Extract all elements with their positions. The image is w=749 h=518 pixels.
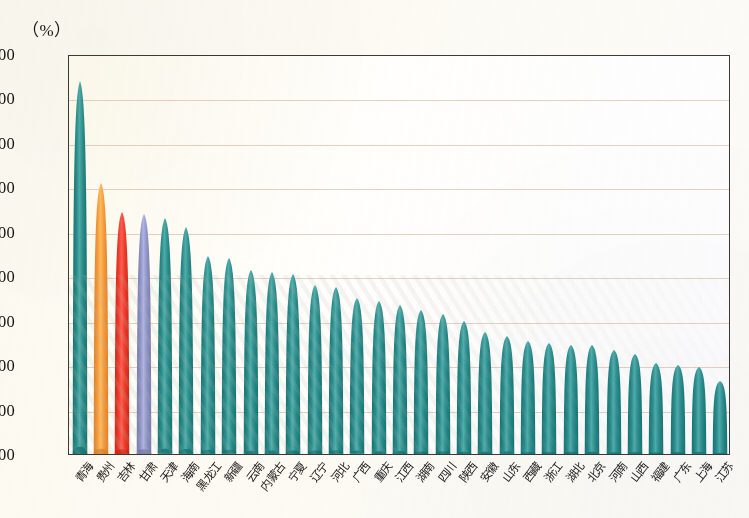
bar-cone — [222, 258, 237, 454]
bar — [585, 345, 600, 454]
x-tick-label: 西藏 — [519, 458, 545, 485]
bar-cone — [200, 256, 215, 454]
bar — [222, 258, 237, 454]
x-tick-label: 湖北 — [561, 458, 587, 485]
bar — [286, 274, 301, 454]
bar-cone — [499, 336, 514, 454]
y-axis-unit-label: （%） — [22, 16, 72, 41]
bar — [627, 354, 642, 454]
bar-cone — [521, 341, 536, 454]
bar-cone — [606, 350, 621, 454]
bar-cone — [243, 270, 258, 454]
bar — [350, 298, 365, 454]
x-tick-label: 江西 — [390, 458, 416, 485]
x-tick-label: 内蒙古 — [256, 458, 289, 494]
y-tick-label: 60.00 — [0, 178, 15, 198]
bar — [200, 256, 215, 454]
x-tick-label: 江苏 — [711, 458, 737, 485]
y-tick-label: 70.00 — [0, 134, 15, 154]
bar — [264, 272, 279, 454]
x-tick-label: 青海 — [70, 458, 96, 485]
bar — [136, 214, 151, 454]
bar — [328, 287, 343, 454]
bar — [243, 270, 258, 454]
x-tick-label: 四川 — [433, 458, 459, 485]
bar-cone — [435, 314, 450, 454]
bar-cone — [136, 214, 151, 454]
x-tick-label: 宁夏 — [284, 458, 310, 485]
bar-cone — [563, 345, 578, 454]
bar-cone — [179, 227, 194, 454]
x-tick-label: 广东 — [668, 458, 694, 485]
plot-area — [68, 55, 730, 455]
y-tick-label: 50.00 — [0, 223, 15, 243]
x-tick-label: 吉林 — [113, 458, 139, 485]
y-tick-label: 90.00 — [0, 45, 15, 65]
y-tick-label: 40.00 — [0, 267, 15, 287]
x-tick-label: 山西 — [625, 458, 651, 485]
bar-cone — [264, 272, 279, 454]
bar — [457, 321, 472, 454]
bar-cone — [286, 274, 301, 454]
x-tick-label: 浙江 — [540, 458, 566, 485]
x-tick-label: 天津 — [156, 458, 182, 485]
bar — [521, 341, 536, 454]
bar-cone — [115, 212, 130, 454]
bar — [606, 350, 621, 454]
x-tick-label: 云南 — [241, 458, 267, 485]
x-tick-label: 辽宁 — [305, 458, 331, 485]
bar-cone — [328, 287, 343, 454]
bar-series — [69, 56, 729, 454]
bar — [435, 314, 450, 454]
bar-cone — [649, 363, 664, 454]
x-tick-label: 广西 — [348, 458, 374, 485]
x-tick-label: 北京 — [583, 458, 609, 485]
bar — [307, 285, 322, 454]
bar — [713, 381, 728, 454]
x-tick-label: 湖南 — [412, 458, 438, 485]
x-tick-label: 山东 — [497, 458, 523, 485]
x-tick-label: 贵州 — [91, 458, 117, 485]
y-tick-label: 0.00 — [0, 445, 15, 465]
x-tick-label: 海南 — [177, 458, 203, 485]
x-tick-label: 河北 — [326, 458, 352, 485]
bar — [94, 183, 109, 454]
bar — [179, 227, 194, 454]
bar-cone — [72, 81, 87, 454]
y-tick-label: 80.00 — [0, 89, 15, 109]
bar-cone — [457, 321, 472, 454]
bar — [691, 367, 706, 454]
x-tick-label: 安徽 — [476, 458, 502, 485]
bar — [670, 365, 685, 454]
bar-cone — [691, 367, 706, 454]
y-tick-label: 20.00 — [0, 356, 15, 376]
bar — [542, 343, 557, 454]
y-tick-label: 30.00 — [0, 312, 15, 332]
x-tick-label: 福建 — [647, 458, 673, 485]
bar-cone — [414, 310, 429, 454]
x-tick-label: 甘肃 — [134, 458, 160, 485]
y-tick-label: 10.00 — [0, 401, 15, 421]
bar — [371, 301, 386, 454]
chart-page: （%） 90.0080.0070.0060.0050.0040.0030.002… — [0, 0, 749, 518]
bar — [393, 305, 408, 454]
bar-cone — [713, 381, 728, 454]
bar-cone — [371, 301, 386, 454]
bar-cone — [393, 305, 408, 454]
bar — [72, 81, 87, 454]
bar — [115, 212, 130, 454]
x-tick-label: 黑龙江 — [191, 458, 224, 494]
bar — [649, 363, 664, 454]
x-tick-label: 新疆 — [220, 458, 246, 485]
bar — [414, 310, 429, 454]
x-tick-label: 陕西 — [455, 458, 481, 485]
bar — [158, 218, 173, 454]
x-tick-label: 重庆 — [369, 458, 395, 485]
bar — [563, 345, 578, 454]
bar-cone — [670, 365, 685, 454]
bar — [478, 332, 493, 454]
bar-cone — [94, 183, 109, 454]
bar — [499, 336, 514, 454]
bar-cone — [158, 218, 173, 454]
bar-cone — [307, 285, 322, 454]
